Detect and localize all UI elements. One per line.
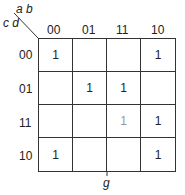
function-label: g	[103, 177, 110, 189]
center-tick-mark	[0, 0, 185, 195]
